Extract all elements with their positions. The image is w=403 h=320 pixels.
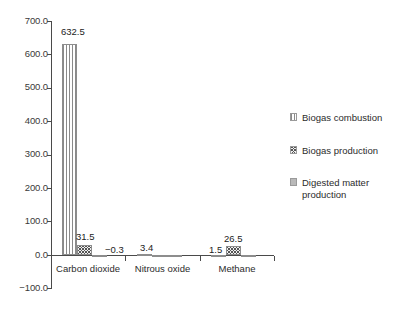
y-tick-mark-neg100 [47, 288, 52, 289]
bar-nitrous-oxide-digested-matter-production [167, 255, 182, 257]
bar-nitrous-oxide-biogas-production [152, 255, 167, 257]
y-tick-label-200: 200.0 [4, 183, 48, 193]
x-tick-mark-2 [200, 256, 201, 261]
bar-value-label-ch4-combustion: 1.5 [209, 245, 222, 255]
y-tick-label-700: 700.0 [4, 16, 48, 26]
y-tick-label-300: 300.0 [4, 149, 48, 159]
chart-legend: Biogas combustion Biogas production Dige… [290, 112, 402, 221]
y-tick-mark-600 [47, 54, 52, 55]
y-tick-label-600: 600.0 [4, 49, 48, 59]
bar-carbon-dioxide-digested-matter-production [92, 255, 107, 257]
bar-carbon-dioxide-biogas-production [77, 245, 92, 256]
bar-methane-digested-matter-production [241, 255, 256, 257]
legend-swatch-cross-hatch-icon [290, 146, 297, 154]
x-axis-label-carbon-dioxide: Carbon dioxide [51, 263, 125, 274]
y-tick-label-neg100: −100.0 [4, 283, 48, 293]
bar-nitrous-oxide-biogas-combustion [137, 254, 152, 256]
legend-swatch-solid-gray-icon [290, 178, 297, 186]
y-tick-mark-200 [47, 188, 52, 189]
y-tick-mark-400 [47, 121, 52, 122]
bar-carbon-dioxide-biogas-combustion [62, 44, 77, 256]
bar-value-label-co2-digested: −0.3 [105, 245, 124, 255]
legend-item-biogas-production: Biogas production [290, 145, 402, 157]
y-tick-mark-500 [47, 88, 52, 89]
y-tick-mark-300 [47, 155, 52, 156]
y-tick-label-400: 400.0 [4, 116, 48, 126]
bar-value-label-co2-combustion: 632.5 [61, 27, 85, 37]
legend-label-biogas-production: Biogas production [302, 145, 378, 157]
bar-value-label-ch4-production: 26.5 [224, 234, 243, 244]
legend-swatch-vertical-lines-icon [290, 113, 297, 121]
y-tick-mark-700 [47, 21, 52, 22]
x-tick-mark-3 [274, 256, 275, 261]
y-tick-label-100: 100.0 [4, 216, 48, 226]
bar-value-label-n2o-combustion: 3.4 [140, 243, 153, 253]
x-axis-label-methane: Methane [200, 263, 274, 274]
bar-chart: 700.0 600.0 500.0 400.0 300.0 200.0 100.… [0, 0, 403, 320]
legend-item-digested-matter-production: Digested matter production [290, 177, 402, 200]
x-axis-label-nitrous-oxide: Nitrous oxide [125, 263, 200, 274]
x-tick-mark-1 [125, 256, 126, 261]
y-tick-label-0: 0.0 [4, 250, 48, 260]
legend-label-digested-matter-production: Digested matter production [302, 177, 402, 200]
legend-label-biogas-combustion: Biogas combustion [302, 112, 382, 124]
y-tick-label-500: 500.0 [4, 82, 48, 92]
bar-methane-biogas-production [226, 246, 241, 255]
y-tick-mark-100 [47, 221, 52, 222]
y-axis: 700.0 600.0 500.0 400.0 300.0 200.0 100.… [0, 0, 48, 320]
legend-item-biogas-combustion: Biogas combustion [290, 112, 402, 124]
bar-value-label-co2-production: 31.5 [76, 232, 95, 242]
x-tick-mark-0 [51, 256, 52, 261]
